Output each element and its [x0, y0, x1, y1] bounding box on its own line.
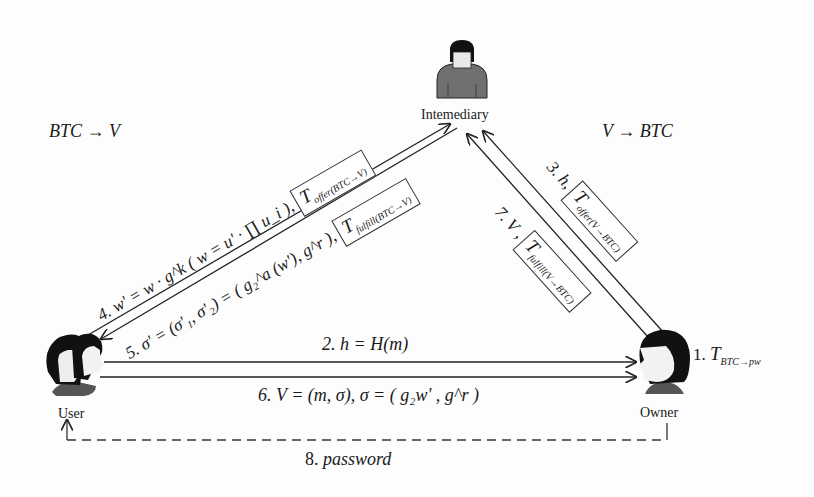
step8-prefix: 8.	[305, 449, 319, 469]
step6-label: 6. V = (m, σ), σ = ( g₂w' , g^r )	[258, 386, 479, 404]
step1-label: 1. TBTC→pw	[693, 344, 761, 367]
step8-text: password	[323, 449, 391, 469]
arrows-layer	[0, 0, 814, 497]
intermediary-label: Intemediary	[421, 108, 489, 122]
step1-prefix: 1.	[693, 345, 706, 364]
intermediary-icon	[437, 40, 487, 98]
direction-label-v-to-btc: V → BTC	[602, 122, 673, 140]
user-icon	[46, 334, 104, 396]
direction-label-btc-to-v: BTC → V	[49, 122, 120, 140]
user-label: User	[58, 407, 84, 421]
step2-label: 2. h = H(m)	[322, 335, 408, 353]
owner-label: Owner	[640, 406, 678, 420]
arrow-step5	[101, 128, 457, 339]
step1-T: T	[710, 343, 721, 364]
step1-sub: BTC→pw	[721, 356, 761, 367]
step8-label: 8. password	[305, 450, 391, 468]
protocol-diagram: BTC → V V → BTC Intemediary User Owner 1…	[0, 0, 814, 497]
owner-icon	[638, 330, 690, 394]
